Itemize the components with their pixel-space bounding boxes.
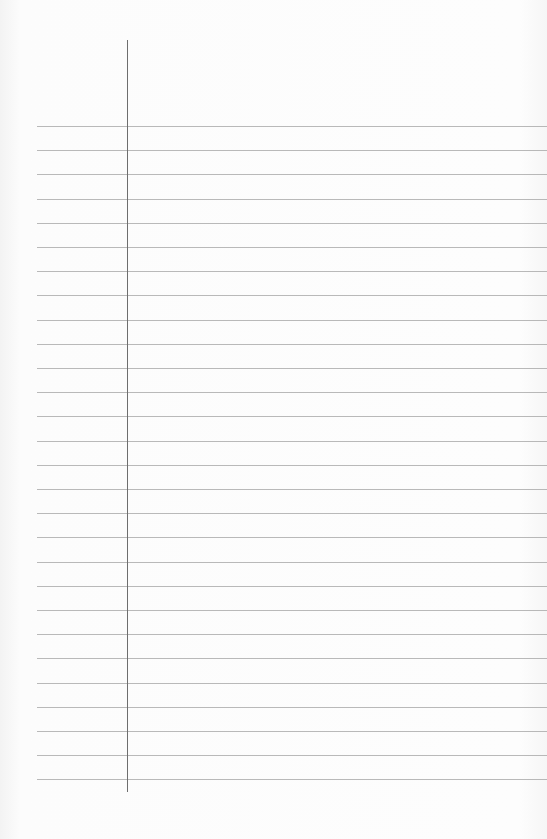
ruled-line — [37, 223, 547, 224]
ruled-line — [37, 368, 547, 369]
ruled-line — [37, 562, 547, 563]
ruled-line — [37, 271, 547, 272]
ruled-line — [37, 707, 547, 708]
ruled-line — [37, 150, 547, 151]
ruled-line — [37, 174, 547, 175]
ruled-line — [37, 320, 547, 321]
ruled-line — [37, 416, 547, 417]
ruled-line — [37, 755, 547, 756]
vertical-margin-line — [127, 40, 128, 792]
ruled-line — [37, 683, 547, 684]
ruled-line — [37, 658, 547, 659]
ruled-line — [37, 295, 547, 296]
ruled-line — [37, 513, 547, 514]
lined-paper-sheet — [0, 0, 547, 839]
ruled-line — [37, 344, 547, 345]
ruled-line — [37, 537, 547, 538]
ruled-line — [37, 779, 547, 780]
ruled-line — [37, 489, 547, 490]
ruled-line — [37, 634, 547, 635]
ruled-line — [37, 586, 547, 587]
ruled-line — [37, 199, 547, 200]
ruled-line — [37, 731, 547, 732]
ruled-line — [37, 126, 547, 127]
ruled-line — [37, 392, 547, 393]
ruled-line — [37, 247, 547, 248]
ruled-line — [37, 610, 547, 611]
ruled-line — [37, 465, 547, 466]
ruled-line — [37, 441, 547, 442]
